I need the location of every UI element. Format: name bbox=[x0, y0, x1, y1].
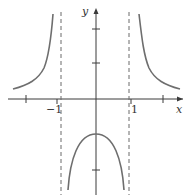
curve-left-branch bbox=[13, 14, 53, 89]
graph-canvas: y x −1 1 bbox=[0, 0, 193, 195]
x-tick-label-pos1: 1 bbox=[131, 103, 138, 116]
y-axis-label: y bbox=[81, 5, 89, 18]
y-axis-arrow-icon bbox=[94, 8, 99, 14]
x-tick-label-neg1: −1 bbox=[46, 103, 62, 116]
curve-right-branch bbox=[139, 14, 180, 89]
x-axis-label: x bbox=[176, 103, 183, 116]
x-axis-arrow-icon bbox=[177, 97, 183, 102]
